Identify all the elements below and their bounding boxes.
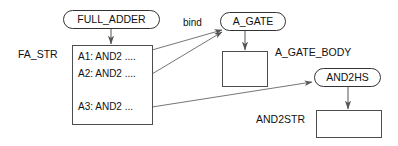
edge-a2-to-a-gate [152,32,222,74]
node-a-gate-body-box-shape [223,52,268,87]
edge-a1-to-a-gate [152,30,222,50]
node-a-gate[interactable]: A_GATE [221,13,286,31]
label-a-gate-body: A_GATE_BODY [275,46,351,58]
node-full-adder-label: FULL_ADDER [77,13,146,25]
entry-a3[interactable]: A3: AND2 ... [78,101,133,112]
label-and2str: AND2STR [256,113,305,125]
node-a-gate-body-box[interactable] [223,52,268,87]
entry-a2[interactable]: A2: AND2 .... [78,68,136,79]
label-fa-str: FA_STR [18,48,58,60]
node-and2hs-label: AND2HS [326,71,369,83]
node-and2hs[interactable]: AND2HS [315,69,381,87]
node-full-adder[interactable]: FULL_ADDER [64,11,160,29]
entry-a1[interactable]: A1: AND2 .... [78,51,136,62]
diagram-svg: FULL_ADDER FA_STR A1: AND2 .... A2: AND2… [0,0,398,146]
node-a-gate-label: A_GATE [233,15,274,27]
diagram-canvas: FULL_ADDER FA_STR A1: AND2 .... A2: AND2… [0,0,398,146]
edge-label-bind: bind [183,17,202,28]
node-and2str-box-shape [317,111,382,138]
node-and2str-box[interactable] [317,111,382,138]
